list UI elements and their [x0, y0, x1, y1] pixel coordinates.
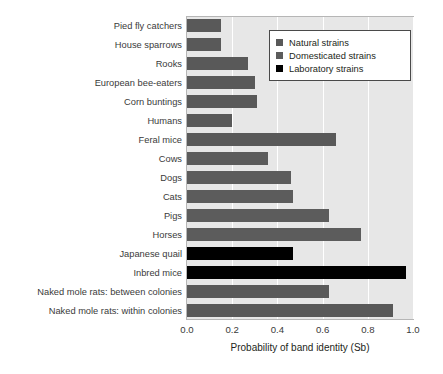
legend-item[interactable]: Laboratory strains	[276, 62, 403, 75]
y-axis-labels: Pied fly catchersHouse sparrowsRooksEuro…	[0, 16, 182, 320]
y-axis-label: Rooks	[0, 59, 182, 69]
y-axis-label: Dogs	[0, 173, 182, 183]
bar	[187, 95, 257, 108]
y-axis-label: Horses	[0, 230, 182, 240]
y-axis-label: European bee-eaters	[0, 78, 182, 88]
bar	[187, 171, 291, 184]
y-axis-label: Cows	[0, 154, 182, 164]
x-axis-tick-label: 0.0	[180, 324, 193, 335]
bar	[187, 247, 293, 260]
y-axis-label: Corn buntings	[0, 97, 182, 107]
bar	[187, 57, 248, 70]
y-axis-label: Inbred mice	[0, 268, 182, 278]
x-axis-title: Probability of band identity (Sb)	[186, 342, 414, 353]
legend: Natural strainsDomesticated strainsLabor…	[269, 30, 411, 81]
bar	[187, 114, 232, 127]
x-axis-tick-label: 0.2	[226, 324, 239, 335]
bar	[187, 266, 406, 279]
legend-item[interactable]: Natural strains	[276, 36, 403, 49]
bar	[187, 304, 393, 317]
bar	[187, 285, 329, 298]
bar	[187, 228, 361, 241]
x-axis-tick-label: 0.6	[316, 324, 329, 335]
y-axis-label: Pigs	[0, 211, 182, 221]
bar	[187, 152, 268, 165]
y-axis-label: Humans	[0, 116, 182, 126]
bar	[187, 209, 329, 222]
bar	[187, 190, 293, 203]
x-axis-ticks: 0.00.20.40.60.81.0	[186, 324, 414, 338]
bar	[187, 76, 255, 89]
legend-swatch-icon	[276, 65, 283, 72]
legend-label: Laboratory strains	[289, 64, 363, 74]
legend-label: Domesticated strains	[289, 51, 376, 61]
legend-item[interactable]: Domesticated strains	[276, 49, 403, 62]
bar	[187, 38, 221, 51]
y-axis-label: House sparrows	[0, 40, 182, 50]
bar-chart: Pied fly catchersHouse sparrowsRooksEuro…	[0, 0, 443, 374]
y-axis-label: Naked mole rats: within colonies	[0, 306, 182, 316]
y-axis-label: Cats	[0, 192, 182, 202]
bar	[187, 19, 221, 32]
x-axis-tick-label: 0.8	[361, 324, 374, 335]
y-axis-label: Feral mice	[0, 135, 182, 145]
legend-label: Natural strains	[289, 38, 349, 48]
y-axis-label: Pied fly catchers	[0, 21, 182, 31]
x-axis-tick-label: 0.4	[271, 324, 284, 335]
y-axis-label: Naked mole rats: between colonies	[0, 287, 182, 297]
y-axis-label: Japanese quail	[0, 249, 182, 259]
legend-swatch-icon	[276, 39, 283, 46]
bar	[187, 133, 336, 146]
legend-swatch-icon	[276, 52, 283, 59]
x-axis-tick-label: 1.0	[406, 324, 419, 335]
